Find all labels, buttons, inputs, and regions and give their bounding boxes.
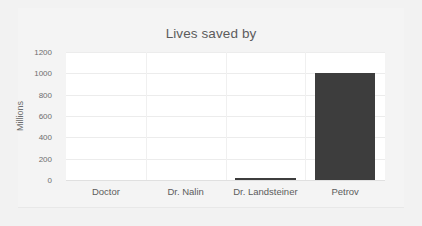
gridline [66, 180, 385, 181]
chart-card: Lives saved by Millions 0200400600800100… [18, 8, 404, 208]
x-axis-tick-label: Dr. Landsteiner [226, 186, 306, 197]
y-axis-tick-label: 0 [8, 176, 52, 185]
x-axis-tick-label: Doctor [66, 186, 146, 197]
x-axis-tick-label: Petrov [305, 186, 385, 197]
y-axis-tick-label: 1200 [8, 48, 52, 57]
y-axis-tick-label: 800 [8, 90, 52, 99]
x-axis-tick-labels: DoctorDr. NalinDr. LandsteinerPetrov [66, 186, 385, 204]
y-axis-tick-label: 400 [8, 133, 52, 142]
bar-slot [305, 52, 385, 180]
bar[interactable] [315, 73, 376, 180]
bar-slot [146, 52, 226, 180]
bar-slot [226, 52, 306, 180]
bar[interactable] [235, 178, 296, 180]
y-axis-tick-label: 600 [8, 112, 52, 121]
bar-series [66, 52, 385, 180]
bar-slot [66, 52, 146, 180]
plot-wrapper: Millions 020040060080010001200 [18, 44, 404, 184]
y-axis-tick-label: 200 [8, 154, 52, 163]
card-bottom-edge [18, 207, 404, 208]
x-axis-tick-label: Dr. Nalin [146, 186, 226, 197]
y-axis-tick-label: 1000 [8, 69, 52, 78]
chart-title: Lives saved by [18, 26, 404, 41]
